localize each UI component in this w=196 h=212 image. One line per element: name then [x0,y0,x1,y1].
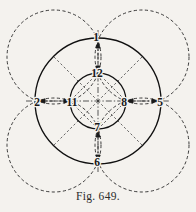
label-1: 1 [93,31,99,43]
label-7: 7 [94,121,100,133]
figure-caption: Fig. 649. [0,190,196,202]
arrow-8-to-5 [128,99,158,103]
spoke-upper-right [98,56,143,101]
label-8: 8 [121,96,127,108]
arrow-2-to-11 [40,99,70,103]
label-12: 12 [91,67,103,79]
label-5: 5 [157,96,163,108]
label-11: 11 [67,96,78,108]
geometric-figure: 1 12 2 11 8 5 7 6 [0,0,196,212]
label-2: 2 [34,96,40,108]
figure-page: 1 12 2 11 8 5 7 6 Fig. 649. [0,0,196,212]
label-6: 6 [94,156,100,168]
